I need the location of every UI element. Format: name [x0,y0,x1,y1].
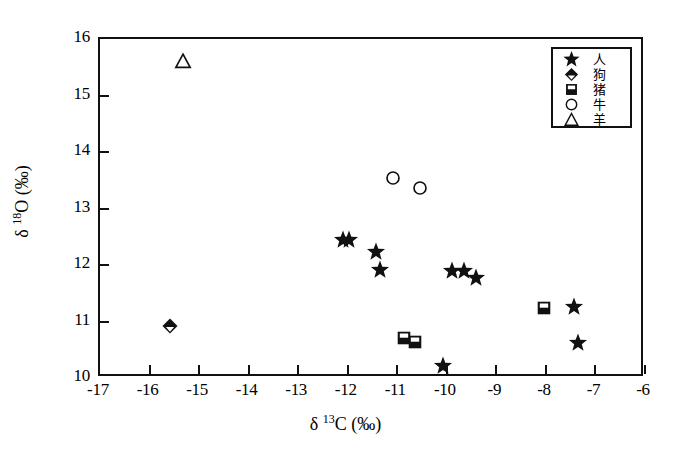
legend-diamond-icon [561,67,581,82]
data-point-star-icon [371,261,390,280]
legend: 人狗猪牛羊 [551,47,632,128]
data-point-star-icon [367,242,386,261]
y-tick-label-12: 12 [48,253,90,273]
legend-item-diamond[interactable]: 狗 [553,67,630,82]
x-tick-label--9: -9 [471,380,517,400]
legend-item-label: 猪 [593,83,606,97]
x-tick--9 [495,365,497,374]
data-point-diamond-icon [161,318,178,335]
x-tick-label--7: -7 [570,380,616,400]
legend-circle-icon [561,98,581,111]
y-axis-title-delta: δ [12,225,32,238]
y-tick-label-13: 13 [48,197,90,217]
y-tick-11 [100,321,109,323]
legend-item-circle[interactable]: 牛 [553,97,630,112]
legend-item-label: 人 [593,53,606,67]
legend-item-label: 牛 [593,98,606,112]
y-tick-15 [100,95,109,97]
y-tick-13 [100,208,109,210]
data-point-square-half-icon [536,301,551,316]
x-tick-label--8: -8 [521,380,567,400]
scatter-plot-figure: -17-16-15-14-13-12-11-10-9-8-7-6 1011121… [0,0,691,474]
legend-star-icon [561,51,581,68]
y-tick-label-10: 10 [48,366,90,386]
data-point-circle-icon [413,181,428,196]
legend-item-label: 狗 [593,68,606,82]
data-point-star-icon [568,334,587,353]
x-tick--13 [297,365,299,374]
x-axis-title-superscript: 13 [323,412,335,426]
y-axis-title: δ 18O (‰) [10,102,33,302]
legend-item-label: 羊 [593,113,606,127]
legend-item-square-half[interactable]: 猪 [553,82,630,97]
y-tick-label-16: 16 [48,27,90,47]
x-tick-label--15: -15 [174,380,220,400]
legend-square-half-icon [561,83,581,96]
x-tick-label--6: -6 [620,380,666,400]
data-point-circle-icon [385,171,400,186]
data-point-star-icon [434,356,453,375]
x-tick-label--14: -14 [224,380,270,400]
data-point-star-icon [340,231,359,250]
y-tick-14 [100,151,109,153]
y-tick-12 [100,264,109,266]
x-tick--15 [198,365,200,374]
legend-item-triangle[interactable]: 羊 [553,112,630,127]
x-tick--14 [248,365,250,374]
x-tick-label--12: -12 [323,380,369,400]
y-tick-label-11: 11 [48,310,90,330]
x-tick-label--16: -16 [125,380,171,400]
x-axis-title: δ 13C (‰) [0,412,691,435]
x-tick--16 [149,365,151,374]
x-tick--12 [347,365,349,374]
x-axis-title-delta: δ [310,414,323,434]
data-point-square-half-icon [408,335,423,350]
x-tick--8 [545,365,547,374]
legend-item-star[interactable]: 人 [553,52,630,67]
data-point-star-icon [564,298,583,317]
x-tick-label--13: -13 [273,380,319,400]
data-point-triangle-icon [175,53,192,70]
data-point-star-icon [466,269,485,288]
y-tick-label-15: 15 [48,84,90,104]
x-tick--7 [594,365,596,374]
x-tick--11 [396,365,398,374]
y-tick-label-14: 14 [48,140,90,160]
y-axis-title-suffix: O (‰) [12,165,32,213]
x-tick--6 [644,365,646,374]
x-tick-label--10: -10 [422,380,468,400]
legend-triangle-icon [561,112,581,127]
x-axis-title-suffix: C (‰) [335,414,382,434]
y-axis-title-superscript: 18 [10,213,24,225]
x-tick-label--11: -11 [372,380,418,400]
